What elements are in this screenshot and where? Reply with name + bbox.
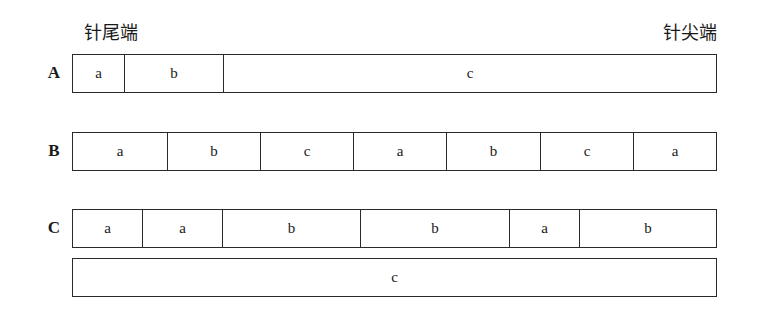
segment: a xyxy=(143,210,223,247)
tip-end-label: 针尖端 xyxy=(663,22,717,44)
segment: a xyxy=(354,133,447,170)
strip-c-top: a a b b a b xyxy=(72,209,717,248)
segment: a xyxy=(510,210,580,247)
tail-end-label: 针尾端 xyxy=(84,22,138,44)
segment: c xyxy=(541,133,634,170)
strip-b: a b c a b c a xyxy=(72,132,717,171)
row-label-a: A xyxy=(44,63,64,83)
segment: a xyxy=(73,210,143,247)
segment: a xyxy=(634,133,716,170)
segment: b xyxy=(361,210,510,247)
strip-c-bottom: c xyxy=(72,258,717,297)
segment: c xyxy=(224,55,716,92)
row-label-c: C xyxy=(44,218,64,238)
segment: b xyxy=(223,210,361,247)
segment: b xyxy=(580,210,716,247)
segment: a xyxy=(73,55,125,92)
segment: a xyxy=(73,133,168,170)
segment: c xyxy=(73,259,716,296)
segment: c xyxy=(261,133,354,170)
segment: b xyxy=(125,55,224,92)
segment: b xyxy=(447,133,541,170)
strip-a: a b c xyxy=(72,54,717,93)
segment: b xyxy=(168,133,261,170)
row-label-b: B xyxy=(44,141,64,161)
